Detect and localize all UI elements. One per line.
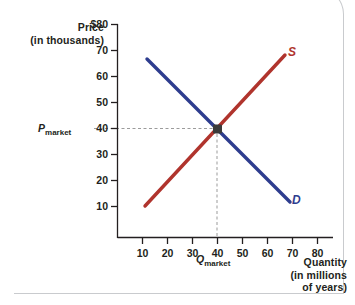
y-tick-label-10: 10 xyxy=(76,200,108,212)
y-tick-label-80: $80 xyxy=(76,18,108,30)
equilibrium-point-marker xyxy=(213,125,222,134)
x-axis-title-line3: of years) xyxy=(302,281,347,293)
x-tick-label-80: 80 xyxy=(305,247,330,259)
x-tick-label-60: 60 xyxy=(255,247,280,259)
price-market-label-main: P xyxy=(38,122,45,134)
supply-curve-label: S xyxy=(288,45,296,59)
price-market-label-sub: market xyxy=(45,128,71,137)
x-tick-label-20: 20 xyxy=(155,247,180,259)
y-tick-label-60: 60 xyxy=(76,70,108,82)
x-axis-title: Quantity (in millions of years) xyxy=(237,256,347,294)
demand-curve-label: D xyxy=(292,193,301,207)
x-axis-title-line2: (in millions xyxy=(290,269,347,281)
quantity-market-label-main: Q xyxy=(196,253,204,265)
y-tick-label-20: 20 xyxy=(76,174,108,186)
quantity-market-label: Qmarket xyxy=(196,253,230,268)
y-tick-label-30: 30 xyxy=(76,148,108,160)
quantity-market-label-sub: market xyxy=(204,259,230,268)
y-tick-label-50: 50 xyxy=(76,96,108,108)
y-tick-label-40: 40 xyxy=(76,122,108,134)
x-tick-label-10: 10 xyxy=(130,247,155,259)
y-tick-label-70: 70 xyxy=(76,44,108,56)
chart-page: Price (in thousands) Quantity (in millio… xyxy=(0,0,355,305)
price-market-label: Pmarket xyxy=(38,122,71,137)
x-tick-label-70: 70 xyxy=(280,247,305,259)
x-tick-label-50: 50 xyxy=(230,247,255,259)
x-axis-ticks xyxy=(143,238,318,244)
